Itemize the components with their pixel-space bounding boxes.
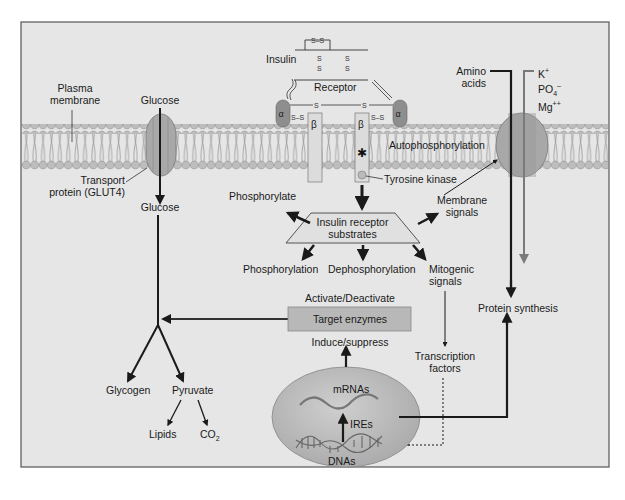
receptor-alpha-subunit-right: α (393, 100, 407, 127)
po4-subscript: 4 (553, 89, 557, 96)
svg-text:S–S: S–S (291, 114, 305, 121)
mrnas-label: mRNAs (333, 383, 369, 395)
receptor-beta-subunit-left: β (308, 113, 322, 182)
svg-text:S: S (317, 65, 322, 72)
target-enzymes-label: Target enzymes (290, 313, 410, 325)
co2-text: CO (200, 428, 216, 440)
plasma-membrane-label-line1: Plasma (50, 82, 100, 94)
diagram-canvas: S–S S S S S α α S S β β ✱ S–S S–S (0, 0, 625, 500)
irs-label-line1: Insulin receptor (305, 216, 400, 228)
lipids-label: Lipids (149, 428, 176, 440)
ions-label: K+ PO4– Mg++ (538, 65, 561, 113)
plasma-membrane-label-line2: membrane (50, 94, 100, 106)
autophosphorylation-label: Autophosphorylation (389, 139, 485, 151)
svg-text:S–S: S–S (371, 114, 385, 121)
transcription-factors-label-line2: factors (410, 362, 480, 374)
mitogenic-signals-label: Mitogenic signals (429, 263, 474, 287)
potassium-label: K+ (538, 65, 561, 80)
svg-text:S: S (314, 102, 319, 109)
k-superscript: + (545, 67, 549, 74)
glucose-intracellular-label: Glucose (135, 201, 185, 213)
svg-text:S: S (317, 55, 322, 62)
po4-text: PO (538, 82, 553, 94)
transport-protein-label-line2: protein (GLUT4) (40, 186, 125, 198)
mitogenic-signals-label-line1: Mitogenic (429, 263, 474, 275)
dnas-label: DNAs (328, 455, 355, 467)
receptor-alpha-subunit-left: α (276, 100, 290, 127)
membrane-signals-label: Membrane signals (432, 194, 492, 218)
amino-acid-channel (496, 113, 548, 177)
svg-text:S: S (362, 102, 367, 109)
svg-text:β: β (358, 119, 364, 130)
receptor-label: Receptor (314, 81, 357, 93)
dephosphorylation-label: Dephosphorylation (328, 263, 416, 275)
ires-label: IREs (350, 418, 373, 430)
co2-subscript: 2 (216, 435, 220, 442)
phosphorylate-label: Phosphorylate (229, 190, 296, 202)
irs-label-line2: substrates (305, 228, 400, 240)
svg-text:β: β (311, 119, 317, 130)
phosphate-label: PO4– (538, 80, 561, 99)
k-text: K (538, 68, 545, 80)
svg-text:S–S: S–S (311, 37, 325, 44)
mg-superscript: ++ (553, 100, 561, 107)
amino-acids-label: Amino acids (440, 65, 486, 89)
magnesium-label: Mg++ (538, 98, 561, 113)
svg-text:✱: ✱ (357, 146, 367, 160)
glucose-extracellular-label: Glucose (135, 94, 185, 106)
amino-acids-label-line2: acids (440, 77, 486, 89)
protein-synthesis-label: Protein synthesis (478, 302, 558, 314)
plasma-membrane-label: Plasma membrane (50, 82, 100, 106)
nucleus (272, 367, 420, 467)
receptor-beta-subunit-right: β ✱ (355, 113, 369, 182)
transcription-factors-label-line1: Transcription (410, 350, 480, 362)
tyrosine-kinase-site (358, 171, 366, 179)
mg-text: Mg (538, 101, 553, 113)
svg-text:S: S (345, 55, 350, 62)
phosphorylation-label: Phosphorylation (243, 263, 318, 275)
membrane-signals-label-line1: Membrane (432, 194, 492, 206)
co2-label: CO2 (200, 428, 220, 445)
svg-text:α: α (279, 109, 284, 119)
tyrosine-kinase-label: Tyrosine kinase (384, 173, 457, 185)
insulin-label: Insulin (266, 53, 296, 65)
activate-deactivate-label: Activate/Deactivate (290, 292, 410, 304)
membrane-signals-label-line2: signals (432, 206, 492, 218)
induce-suppress-label: Induce/suppress (290, 336, 410, 348)
pyruvate-label: Pyruvate (172, 384, 213, 396)
amino-acids-label-line1: Amino (440, 65, 486, 77)
svg-text:α: α (396, 109, 401, 119)
glycogen-label: Glycogen (106, 384, 150, 396)
svg-text:S: S (345, 65, 350, 72)
insulin-signaling-diagram: S–S S S S S α α S S β β ✱ S–S S–S (0, 0, 625, 500)
mitogenic-signals-label-line2: signals (429, 275, 474, 287)
transport-protein-label: Transport protein (GLUT4) (40, 174, 125, 198)
transcription-factors-label: Transcription factors (410, 350, 480, 374)
irs-label: Insulin receptor substrates (305, 216, 400, 240)
po4-superscript: – (557, 82, 561, 89)
transport-protein-label-line1: Transport (40, 174, 125, 186)
